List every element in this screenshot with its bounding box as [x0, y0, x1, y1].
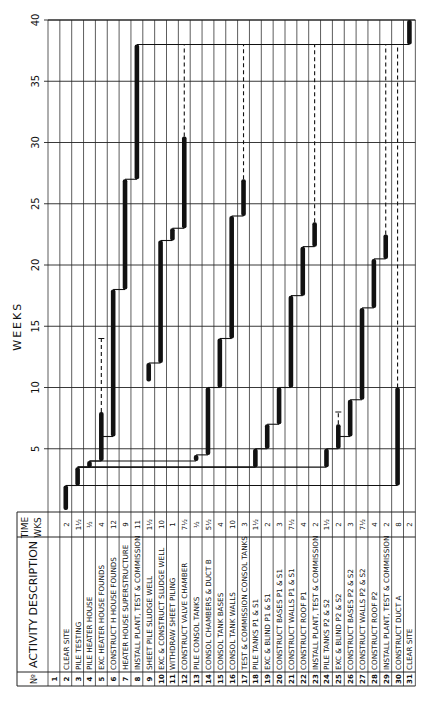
activity-bar	[265, 424, 270, 449]
row-number: 13	[193, 674, 201, 684]
gantt-svg: 510152025303540WEEKSTIMEWKSACTIVITY DESC…	[0, 0, 432, 717]
activity-duration: 1½	[75, 519, 83, 530]
column-header: Nº	[30, 674, 39, 684]
activity-description: EXC & BLIND P2 & S2	[334, 593, 343, 670]
activity-duration: 2	[63, 522, 71, 526]
activity-duration: 2	[312, 522, 320, 526]
activity-bar	[99, 412, 104, 461]
activity-bar	[123, 179, 128, 289]
activity-duration: 2	[335, 522, 343, 526]
activity-duration: 1½	[323, 519, 331, 530]
activity-bar	[146, 363, 151, 381]
gantt-chart: 510152025303540WEEKSTIMEWKSACTIVITY DESC…	[0, 0, 432, 717]
activity-bar	[395, 388, 400, 486]
axis-tick-label: 20	[30, 259, 41, 272]
activity-duration: 5½	[205, 519, 213, 530]
activity-description: CONSOL CHAMBERS & DUCT B	[204, 559, 213, 670]
activity-description: SHEET PILE SLUDGE WELL	[145, 576, 154, 670]
activity-bar	[63, 486, 68, 511]
activity-description: HEATER HOUSE SUPERSTRUCTURE	[121, 544, 130, 670]
column-header: WKS	[33, 517, 43, 538]
activity-duration: 4	[300, 522, 308, 527]
row-number: 20	[276, 674, 284, 684]
row-number: 22	[300, 674, 308, 684]
activity-duration: 1½	[146, 519, 154, 530]
activity-description: CONSTRUCT VALVE CHAMBER	[180, 563, 189, 670]
activity-duration: 3	[347, 522, 355, 526]
row-number: 28	[371, 674, 379, 684]
activity-description: PILE CONSOL TANKS	[192, 596, 201, 670]
row-number: 14	[205, 674, 213, 684]
row-number: 25	[335, 674, 343, 684]
activity-duration: 12	[110, 520, 118, 529]
activity-description: CONSTRUCT DUCT A	[394, 596, 403, 670]
row-number: 30	[395, 674, 403, 684]
activity-duration: ½	[193, 521, 201, 528]
activity-duration: 2	[383, 522, 391, 526]
row-number: 19	[264, 674, 272, 684]
activity-description: CONSTRUCT H HOUSE FOUNDS	[109, 557, 118, 670]
row-number: 1	[51, 676, 59, 681]
activity-description: CONSTRUCT WALLS P2 & S2	[358, 568, 367, 670]
axis-tick-label: 35	[30, 75, 41, 88]
axis-tick-label: 30	[30, 136, 41, 149]
activity-description: PILE TANKS P2 & S2	[322, 599, 331, 670]
activity-description: EXC & BLIND P1 & S1	[263, 593, 272, 670]
activity-duration: 7½	[359, 519, 367, 530]
row-number: 26	[347, 674, 355, 684]
activity-bar	[372, 259, 377, 308]
activity-description: CLEAR SITE	[405, 628, 414, 670]
activity-duration: 2	[406, 522, 414, 526]
activity-bar	[241, 179, 246, 216]
row-number: 16	[229, 674, 237, 684]
activity-duration: 3	[241, 522, 249, 526]
activity-description: WITHDRAW SHEET PILING	[168, 578, 177, 670]
axis-tick-label: 40	[30, 14, 41, 27]
activity-duration: 11	[134, 520, 142, 529]
activity-duration: 3	[276, 522, 284, 526]
activity-bar	[75, 467, 80, 485]
row-number: 31	[406, 674, 414, 684]
axis-tick-label: 10	[30, 381, 41, 394]
activity-duration: 2	[264, 522, 272, 526]
activity-bar	[348, 400, 353, 437]
row-number: 29	[383, 674, 391, 684]
activity-duration: 9	[122, 522, 130, 526]
row-number: 2	[63, 676, 71, 681]
activity-bar	[360, 308, 365, 400]
activity-duration: 4	[217, 522, 225, 527]
row-number: 8	[134, 676, 142, 681]
activity-bar	[194, 455, 199, 461]
activity-description: CONSTRUCT ROOF P1	[299, 591, 308, 670]
axis-tick-label: 15	[30, 320, 41, 333]
row-number: 6	[110, 676, 118, 681]
activity-bar	[336, 424, 341, 449]
activity-bar	[87, 461, 92, 467]
activity-bar	[383, 234, 388, 259]
activity-description: PILE TESTING	[74, 622, 83, 670]
row-number: 21	[288, 674, 296, 684]
activity-duration: 4	[371, 522, 379, 527]
activity-description: CONSOL TANK BASES	[216, 592, 225, 670]
activity-duration: 10	[229, 520, 237, 529]
activity-description: EXC & CONSTRUCT SLUDGE WELL	[157, 548, 166, 670]
activity-description: INSTALL PLANT, TEST & COMMISSION	[382, 536, 391, 670]
activity-description: EXC HEATER HOUSE FOUNDS	[97, 565, 106, 670]
activity-description: CONSTRUCT BASES P2 & S2	[346, 569, 355, 670]
row-number: 23	[312, 674, 320, 684]
activity-duration: 10	[158, 520, 166, 529]
activity-duration: 4	[98, 522, 106, 527]
row-number: 15	[217, 674, 225, 684]
activity-bar	[253, 449, 258, 467]
activity-bar	[182, 136, 187, 228]
activity-description: INSTALL PLANT, TEST & COMMISSION	[133, 536, 142, 670]
activity-description: CONSTRUCT BASES P1 & S1	[275, 569, 284, 670]
axis-title: WEEKS	[11, 302, 24, 351]
activity-bar	[407, 20, 412, 45]
activity-description: PILE TANKS P1 & S1	[251, 599, 260, 670]
activity-bar	[324, 449, 329, 467]
row-number: 7	[122, 676, 130, 681]
row-number: 27	[359, 674, 367, 684]
row-number: 4	[86, 676, 94, 681]
activity-description: CLEAR SITE	[62, 628, 71, 670]
